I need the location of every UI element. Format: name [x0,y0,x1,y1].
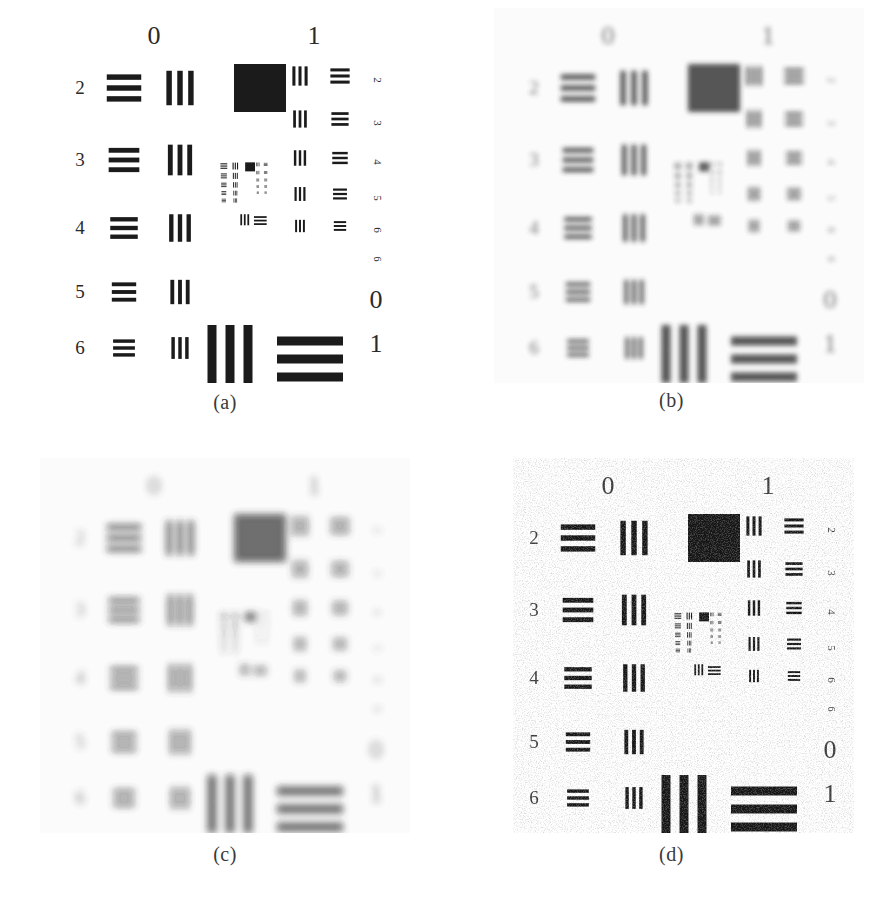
mini-vertical-bars [687,641,688,646]
group0-vertical-bars [178,787,181,809]
group0-vertical-bars [186,730,190,754]
mini-vertical-bars [237,632,238,637]
mini-horizontal-bars [221,173,227,174]
mini-vertical-bars [236,641,237,646]
group1-vertical-bars [758,560,761,577]
group1-horizontal-bars [786,602,801,604]
group1-horizontal-bars [334,671,346,673]
chart-c-canvas: 234562345660101 [40,458,410,833]
group1-horizontal-bars [785,118,802,121]
element-label-left: 4 [529,667,539,688]
mini-group1-vertical-bars [258,613,259,617]
mini-vertical-bars [233,191,234,196]
mini-horizontal-bars [675,643,680,644]
mini-horizontal-bars [674,168,681,169]
mini-group1-horizontal-bars [264,613,268,614]
element-label-left: 2 [75,527,85,548]
mini-vertical-bars [688,641,689,646]
element-label-right: 3 [372,120,384,126]
mini-vertical-bars [235,163,236,170]
group0-horizontal-bars [560,85,594,90]
mini-vertical-bars [688,632,689,637]
group0-el1-vertical-bars [679,775,688,833]
group0-horizontal-bars [109,158,140,163]
element-label-right: 4 [826,609,838,615]
group1-vertical-bars [747,150,749,165]
group1-vertical-bars [295,220,297,232]
group-label-top-0: 0 [601,471,614,500]
mini-horizontal-bars [221,644,226,645]
group0-horizontal-bars [567,339,589,342]
group1-horizontal-bars [332,602,347,604]
element-label-right: 6 [826,257,837,262]
mini-group1-horizontal-bars [717,621,720,622]
group1-horizontal-bars [331,123,348,126]
element-label-left: 4 [529,217,539,238]
mini-vertical-bars [690,613,691,620]
group0-vertical-bars [631,595,636,626]
group0-vertical-bars [187,595,192,626]
group0-horizontal-bars [564,217,592,221]
group1-horizontal-bars [785,112,802,115]
group1-vertical-bars [304,560,307,577]
mini-vertical-bars [233,613,234,620]
group1-vertical-bars [303,670,305,682]
mini-group1-horizontal-bars [717,171,720,172]
group0-horizontal-bars [109,148,140,153]
group1-vertical-bars [295,637,297,651]
mini-horizontal-bars [220,166,227,167]
group1-horizontal-bars [333,647,347,649]
mini-group1-horizontal-bars [264,623,267,624]
group1-vertical-bars [299,110,302,127]
mini-horizontal-bars [220,613,227,614]
mini-horizontal-bars [222,650,226,651]
group1-vertical-bars [299,600,301,615]
group0-horizontal-bars [562,608,593,613]
group0-horizontal-bars [567,346,589,349]
mini-el1-vertical-bars [701,664,703,675]
group1-horizontal-bars [787,197,801,199]
mini-group1-horizontal-bars [264,173,267,174]
group1-horizontal-bars [784,81,803,84]
mini-group1-horizontal-bars [717,622,720,623]
element-label-right: 4 [372,609,384,615]
mini-vertical-bars [688,173,689,179]
group0-horizontal-bars [107,535,141,540]
group0-horizontal-bars [112,290,136,294]
mini-el1-vertical-bars [694,214,696,225]
group0-el1-vertical-bars [661,775,670,833]
mini-vertical-bars [686,163,687,170]
mini-el1-horizontal-bars [254,216,267,218]
group1-horizontal-bars [332,157,347,159]
mini-vertical-bars [690,623,691,629]
group0-vertical-bars [178,214,182,242]
group1-vertical-bars [752,516,755,535]
group0-vertical-bars [177,71,182,105]
group1-horizontal-bars [786,162,801,164]
element-label-right: 6 [372,677,384,683]
group1-vertical-bars [304,600,306,615]
mini-group1-horizontal-bars [264,163,268,164]
mini-vertical-bars [235,648,236,652]
mini-el1-vertical-bars [697,664,699,675]
mini-group1-vertical-bars [256,163,257,167]
mini-horizontal-bars [221,175,227,176]
mini-group1-vertical-bars [259,171,260,174]
group0-vertical-bars [640,214,644,242]
group1-horizontal-bars [784,524,803,527]
mini-group1-vertical-bars [259,163,260,167]
element-label-left: 6 [75,337,85,358]
group0-el1-horizontal-bars [731,355,797,364]
mini-vertical-bars [237,173,238,179]
mini-horizontal-bars [221,633,226,634]
group1-vertical-bars [299,187,301,201]
chart-d-canvas: 234562345660101 [494,458,864,833]
mini-vertical-bars [236,648,237,652]
mini-group1-horizontal-bars [264,621,267,622]
mini-horizontal-bars [221,186,226,187]
group0-vertical-bars [187,214,191,242]
group-label-bottom-0: 0 [823,285,836,314]
group1-horizontal-bars [334,679,346,681]
group1-horizontal-bars [784,518,803,521]
group0-vertical-bars [188,71,193,105]
